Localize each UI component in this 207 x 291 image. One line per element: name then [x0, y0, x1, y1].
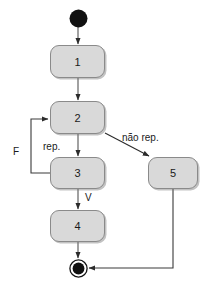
- edge-label-f: F: [13, 147, 19, 157]
- edge-label-rep: rep.: [43, 142, 60, 152]
- edge-label-v: V: [85, 193, 92, 203]
- action-node-2-label: 2: [74, 112, 80, 124]
- action-node-1[interactable]: 1: [50, 45, 105, 78]
- action-node-3[interactable]: 3: [50, 157, 105, 189]
- edge-label-nao-rep: não rep.: [122, 133, 159, 143]
- activity-diagram-canvas: 1 2 3 4 5 não rep. rep. F V: [0, 0, 207, 291]
- final-node: [69, 259, 88, 278]
- action-node-4-label: 4: [74, 220, 80, 232]
- action-node-3-label: 3: [74, 167, 80, 179]
- initial-node: [69, 9, 88, 28]
- action-node-1-label: 1: [74, 56, 80, 68]
- action-node-2[interactable]: 2: [50, 101, 105, 134]
- action-node-5[interactable]: 5: [148, 157, 198, 189]
- action-node-4[interactable]: 4: [50, 210, 105, 242]
- action-node-5-label: 5: [170, 167, 176, 179]
- diagram-connectors-layer: [0, 0, 207, 291]
